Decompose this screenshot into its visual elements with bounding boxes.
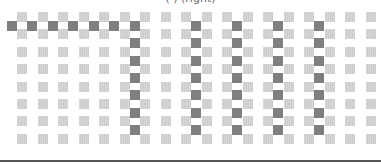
grid-cell xyxy=(366,116,376,126)
grid-cell xyxy=(222,82,232,92)
grid-cell xyxy=(140,82,150,92)
grid-cell xyxy=(304,82,314,92)
grid-cell xyxy=(366,12,376,22)
path-cell xyxy=(130,73,140,83)
grid-cell xyxy=(304,116,314,126)
grid-cell xyxy=(99,134,109,144)
grid-cell xyxy=(17,12,27,22)
grid-cell xyxy=(161,134,171,144)
grid-cell xyxy=(140,64,150,74)
path-cell xyxy=(191,56,201,66)
grid-cell xyxy=(202,99,212,109)
grid-cell xyxy=(366,47,376,57)
path-cell xyxy=(130,108,140,118)
grid-cell xyxy=(243,29,253,39)
grid-cell xyxy=(304,99,314,109)
grid-cell xyxy=(140,47,150,57)
grid-cell xyxy=(263,134,273,144)
path-cell xyxy=(314,21,324,31)
grid-cell xyxy=(79,82,89,92)
grid-cell xyxy=(38,82,48,92)
grid-cell xyxy=(345,82,355,92)
grid-cell xyxy=(17,64,27,74)
grid-cell xyxy=(79,99,89,109)
grid-cell xyxy=(17,29,27,39)
grid-cell xyxy=(284,134,294,144)
grid-cell xyxy=(140,99,150,109)
path-cell xyxy=(314,90,324,100)
grid-cell xyxy=(222,134,232,144)
grid-cell xyxy=(120,12,130,22)
grid-cell xyxy=(120,82,130,92)
grid-cell xyxy=(222,116,232,126)
grid-cell xyxy=(120,64,130,74)
grid-cell xyxy=(325,64,335,74)
path-cell xyxy=(191,73,201,83)
path-cell xyxy=(232,90,242,100)
grid-cell xyxy=(284,116,294,126)
grid-cell xyxy=(181,64,191,74)
path-cell xyxy=(273,38,283,48)
path-cell xyxy=(232,56,242,66)
grid-cell xyxy=(304,64,314,74)
grid-cell xyxy=(161,29,171,39)
path-cell xyxy=(314,108,324,118)
grid-cell xyxy=(284,64,294,74)
path-cell xyxy=(130,90,140,100)
grid-cell xyxy=(161,116,171,126)
path-cell xyxy=(48,21,58,31)
grid-cell xyxy=(38,99,48,109)
grid-cell xyxy=(345,29,355,39)
grid-cell xyxy=(284,82,294,92)
path-cell xyxy=(191,90,201,100)
grid-cell xyxy=(366,29,376,39)
path-cell xyxy=(68,21,78,31)
path-cell xyxy=(232,38,242,48)
grid-cell xyxy=(222,12,232,22)
grid-cell xyxy=(58,99,68,109)
path-cell xyxy=(273,90,283,100)
grid-cell xyxy=(120,29,130,39)
grid-cell xyxy=(58,134,68,144)
grid-cell xyxy=(263,47,273,57)
grid-cell xyxy=(17,47,27,57)
grid-cell xyxy=(161,99,171,109)
grid-cell xyxy=(345,64,355,74)
grid-cell xyxy=(304,29,314,39)
path-cell xyxy=(130,125,140,135)
grid-cell xyxy=(222,99,232,109)
grid-cell xyxy=(120,134,130,144)
grid-cell xyxy=(284,99,294,109)
grid-cell xyxy=(181,82,191,92)
path-cell xyxy=(232,73,242,83)
grid-cell xyxy=(325,82,335,92)
path-cell xyxy=(130,38,140,48)
grid-cell xyxy=(304,12,314,22)
grid-cell xyxy=(120,47,130,57)
grid-cell xyxy=(140,134,150,144)
grid-cell xyxy=(38,134,48,144)
grid-cell xyxy=(58,12,68,22)
grid-cell xyxy=(161,47,171,57)
grid-cell xyxy=(304,134,314,144)
path-cell xyxy=(130,21,140,31)
grid-cell xyxy=(38,47,48,57)
grid-cell xyxy=(345,116,355,126)
path-cell xyxy=(191,125,201,135)
grid-cell xyxy=(79,29,89,39)
path-cell xyxy=(314,125,324,135)
grid-cell xyxy=(263,116,273,126)
grid-cell xyxy=(222,47,232,57)
grid-cell xyxy=(243,116,253,126)
grid-cell xyxy=(202,116,212,126)
path-cell xyxy=(232,108,242,118)
grid-cell xyxy=(263,82,273,92)
path-cell xyxy=(273,56,283,66)
path-cell xyxy=(130,56,140,66)
grid-cell xyxy=(222,64,232,74)
grid-cell xyxy=(325,116,335,126)
grid-cell xyxy=(99,64,109,74)
grid-cell xyxy=(263,12,273,22)
grid-cell xyxy=(161,82,171,92)
grid-cell xyxy=(99,99,109,109)
